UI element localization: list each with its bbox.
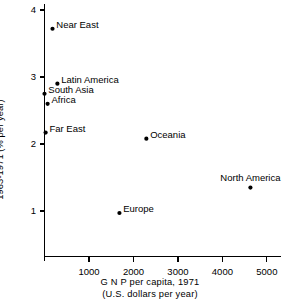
x-tick-label: 3000 xyxy=(167,266,188,277)
y-tick-label: 4 xyxy=(31,4,36,15)
x-tick-label: 4000 xyxy=(212,266,233,277)
data-point xyxy=(144,137,148,141)
data-point-label: North America xyxy=(220,172,281,183)
data-point xyxy=(42,92,46,96)
plot-canvas: 1234 10002000300040005000 Near EastLatin… xyxy=(0,0,282,305)
data-point xyxy=(46,102,50,106)
data-point xyxy=(50,27,54,31)
x-tick-group: 10002000300040005000 xyxy=(45,252,278,277)
data-point-label: Europe xyxy=(123,203,154,214)
x-axis: 10002000300040005000 xyxy=(45,252,282,277)
data-points-group: Near EastLatin AmericaSouth AsiaAfricaFa… xyxy=(42,19,281,215)
data-point-label: Near East xyxy=(56,19,99,30)
data-point-label: Africa xyxy=(51,94,76,105)
x-tick-label: 1000 xyxy=(78,266,99,277)
x-tick-label: 2000 xyxy=(123,266,144,277)
y-tick-label: 1 xyxy=(31,205,36,216)
data-point-label: Far East xyxy=(49,123,85,134)
y-tick-group: 1234 xyxy=(31,4,45,216)
y-tick-label: 2 xyxy=(31,138,36,149)
data-point-label: Oceania xyxy=(150,129,186,140)
y-axis: 1234 xyxy=(31,4,45,256)
data-point xyxy=(44,131,48,135)
data-point xyxy=(117,211,121,215)
y-tick-label: 3 xyxy=(31,71,36,82)
data-point xyxy=(248,185,252,189)
scatter-plot-figure: 1234 10002000300040005000 Near EastLatin… xyxy=(0,0,282,305)
x-tick-label: 5000 xyxy=(256,266,277,277)
